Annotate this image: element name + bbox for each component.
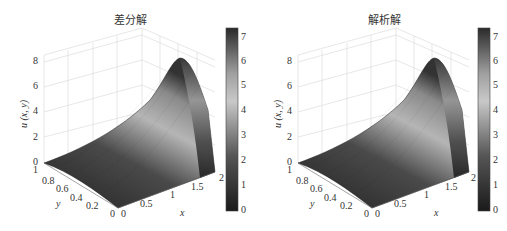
colorbar-tick: 0 <box>493 204 498 215</box>
x-tick: 1.5 <box>191 181 204 192</box>
colorbar-tick: 7 <box>241 31 246 42</box>
colorbar-tick: 5 <box>493 79 498 90</box>
x-tick: 1.5 <box>445 181 458 192</box>
y-axis-label: y <box>310 198 314 209</box>
x-tick: 0.5 <box>140 198 153 209</box>
colorbar <box>478 28 490 211</box>
y-tick: 0 <box>364 208 369 219</box>
y-tick: 0.4 <box>324 192 337 203</box>
y-tick: 0.2 <box>86 200 99 211</box>
y-tick: 0.2 <box>340 200 353 211</box>
y-tick: 0.4 <box>70 192 83 203</box>
z-tick: 8 <box>278 55 292 66</box>
colorbar-tick: 6 <box>493 55 498 66</box>
z-tick: 8 <box>24 55 38 66</box>
x-tick: 1 <box>424 189 429 200</box>
y-tick: 0.6 <box>56 183 69 194</box>
z-tick: 6 <box>24 80 38 91</box>
colorbar-tick: 7 <box>493 31 498 42</box>
colorbar-tick: 1 <box>493 179 498 190</box>
colorbar-tick: 3 <box>241 129 246 140</box>
colorbar-tick: 5 <box>241 79 246 90</box>
y-tick: 0.6 <box>310 183 323 194</box>
x-tick: 0 <box>375 208 380 219</box>
panel-analytical: 解析解 8 6 4 2 0 u (x, y) 1 0.8 0.6 0.4 0.2… <box>254 0 507 231</box>
panel-finite-difference: 差分解 8 6 4 2 0 u (x, y) 1 0.8 0.6 0.4 0.2… <box>0 0 253 231</box>
colorbar-tick: 3 <box>493 129 498 140</box>
colorbar-tick: 6 <box>241 55 246 66</box>
colorbar-tick: 4 <box>241 104 246 115</box>
z-axis-label: u (x, y) <box>18 100 29 128</box>
x-tick: 0 <box>121 208 126 219</box>
y-tick: 1 <box>287 164 292 175</box>
z-tick: 2 <box>24 131 38 142</box>
z-tick: 2 <box>278 131 292 142</box>
colorbar <box>226 28 238 211</box>
y-tick: 0 <box>110 208 115 219</box>
z-tick: 6 <box>278 80 292 91</box>
y-tick: 1 <box>33 164 38 175</box>
x-tick: 2 <box>471 172 476 183</box>
y-tick: 0.8 <box>42 175 55 186</box>
plot-title: 解析解 <box>344 11 424 27</box>
x-axis-label: x <box>180 207 184 218</box>
y-tick: 0.8 <box>296 175 309 186</box>
colorbar-tick: 1 <box>241 179 246 190</box>
plot-title: 差分解 <box>90 11 170 27</box>
colorbar-tick: 2 <box>493 154 498 165</box>
x-axis-label: x <box>434 207 438 218</box>
x-tick: 0.5 <box>394 198 407 209</box>
colorbar-tick: 0 <box>241 204 246 215</box>
x-tick: 2 <box>219 172 224 183</box>
z-axis-label: u (x, y) <box>272 100 283 128</box>
y-axis-label: y <box>56 198 60 209</box>
x-tick: 1 <box>170 189 175 200</box>
colorbar-tick: 4 <box>493 104 498 115</box>
colorbar-tick: 2 <box>241 154 246 165</box>
